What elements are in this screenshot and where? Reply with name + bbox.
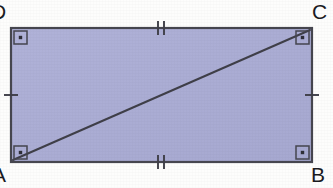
geometry-figure-rectangle-abcd	[0, 0, 333, 188]
vertex-label-b: B	[311, 164, 325, 185]
vertex-label-d: D	[0, 1, 6, 22]
vertex-label-c: C	[312, 1, 327, 22]
vertex-label-a: A	[0, 164, 6, 185]
